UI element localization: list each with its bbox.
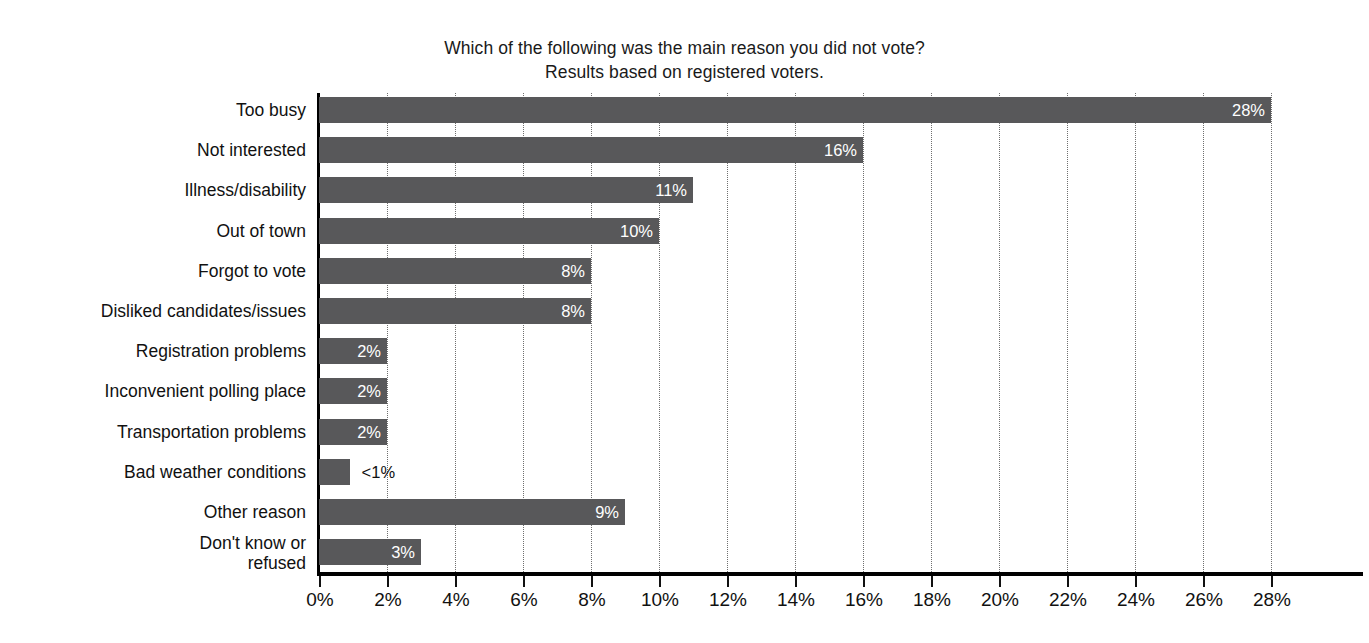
bar-value-label: 2% — [357, 419, 381, 445]
x-tick-label: 26% — [1185, 589, 1223, 611]
bar-row: Forgot to vote8% — [0, 258, 1369, 298]
bar[interactable]: 16% — [319, 137, 863, 163]
bar-value-label: 9% — [595, 499, 619, 525]
bar-value-label: 8% — [561, 258, 585, 284]
bar-row: Transportation problems2% — [0, 419, 1369, 459]
bar-value-label: 2% — [357, 378, 381, 404]
bar-value-label: 16% — [824, 137, 857, 163]
x-tick — [319, 576, 321, 587]
bar-value-label: 11% — [655, 177, 687, 203]
x-tick — [1135, 576, 1137, 587]
bar[interactable]: 10% — [319, 218, 659, 244]
x-tick-label: 20% — [981, 589, 1019, 611]
bar-row: Too busy28% — [0, 97, 1369, 137]
bar-chart: Which of the following was the main reas… — [0, 0, 1369, 643]
bar-value-label: 28% — [1232, 97, 1265, 123]
category-label: Too busy — [6, 100, 306, 121]
bar[interactable]: 3% — [319, 539, 421, 565]
x-tick-label: 18% — [913, 589, 951, 611]
bar-row: Out of town10% — [0, 218, 1369, 258]
x-tick-label: 28% — [1253, 589, 1291, 611]
bar-value-label: 3% — [391, 539, 415, 565]
x-tick-label: 6% — [510, 589, 537, 611]
plot-area: Too busy28%Not interested16%Illness/disa… — [0, 0, 1369, 643]
x-tick — [931, 576, 933, 587]
x-tick-label: 10% — [641, 589, 679, 611]
bar-value-label: 10% — [620, 218, 653, 244]
x-tick-label: 14% — [777, 589, 815, 611]
bar-row: Registration problems2% — [0, 338, 1369, 378]
bar[interactable]: 28% — [319, 97, 1271, 123]
x-tick-label: 0% — [306, 589, 333, 611]
bar[interactable]: 8% — [319, 298, 591, 324]
category-label: Don't know or refused — [6, 533, 306, 573]
category-label: Inconvenient polling place — [6, 381, 306, 402]
x-tick-label: 8% — [578, 589, 605, 611]
bar-row: Illness/disability11% — [0, 177, 1369, 217]
x-tick — [1067, 576, 1069, 587]
bar-row: Disliked candidates/issues8% — [0, 298, 1369, 338]
x-tick — [863, 576, 865, 587]
x-tick-label: 12% — [709, 589, 747, 611]
x-tick-label: 16% — [845, 589, 883, 611]
category-label: Illness/disability — [6, 180, 306, 201]
bar[interactable]: 9% — [319, 499, 625, 525]
bar-value-label: 8% — [561, 298, 585, 324]
x-tick — [523, 576, 525, 587]
x-tick — [659, 576, 661, 587]
category-label: Bad weather conditions — [6, 462, 306, 483]
category-label: Not interested — [6, 140, 306, 161]
x-tick — [591, 576, 593, 587]
x-tick — [795, 576, 797, 587]
bar[interactable] — [319, 459, 350, 485]
bar-row: Don't know or refused3% — [0, 539, 1369, 579]
category-label: Disliked candidates/issues — [6, 301, 306, 322]
x-tick — [455, 576, 457, 587]
x-tick — [1271, 576, 1273, 587]
x-tick-label: 2% — [374, 589, 401, 611]
category-label: Forgot to vote — [6, 261, 306, 282]
category-label: Other reason — [6, 502, 306, 523]
bar-row: Not interested16% — [0, 137, 1369, 177]
x-tick — [1203, 576, 1205, 587]
bar[interactable]: 2% — [319, 419, 387, 445]
bar[interactable]: 2% — [319, 378, 387, 404]
bar-row: Bad weather conditions — [0, 459, 1369, 499]
category-label: Out of town — [6, 221, 306, 242]
bar-row: Inconvenient polling place2% — [0, 378, 1369, 418]
bar-value-label: 2% — [357, 338, 381, 364]
bar[interactable]: 8% — [319, 258, 591, 284]
x-tick — [999, 576, 1001, 587]
x-tick — [387, 576, 389, 587]
x-tick-label: 4% — [442, 589, 469, 611]
category-label: Registration problems — [6, 341, 306, 362]
x-tick — [727, 576, 729, 587]
bar[interactable]: 11% — [319, 177, 693, 203]
x-tick-label: 22% — [1049, 589, 1087, 611]
bar[interactable]: 2% — [319, 338, 387, 364]
x-tick-label: 24% — [1117, 589, 1155, 611]
category-label: Transportation problems — [6, 422, 306, 443]
